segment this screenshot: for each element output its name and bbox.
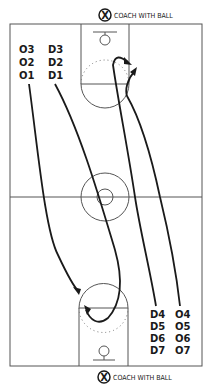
svg-text:O4: O4 — [175, 309, 191, 320]
svg-text:O2: O2 — [19, 57, 35, 68]
top-left-offense: O3 O2 O1 — [19, 44, 35, 81]
coach-top-label: COACH WITH BALL — [114, 12, 173, 20]
svg-text:O6: O6 — [175, 333, 191, 344]
svg-text:X: X — [101, 10, 109, 21]
arrow-head-icon — [124, 57, 132, 65]
svg-text:D6: D6 — [150, 333, 165, 344]
coach-bottom-label: COACH WITH BALL — [113, 374, 172, 382]
court-diagram: X COACH WITH BALL X COACH WITH BALL O3 O… — [0, 0, 216, 389]
svg-text:O3: O3 — [19, 44, 35, 55]
svg-text:D5: D5 — [150, 321, 165, 332]
top-hoop-icon — [100, 35, 110, 45]
coach-top: X COACH WITH BALL — [99, 9, 173, 21]
arrow-head-icon — [73, 287, 81, 295]
bottom-key — [79, 284, 128, 367]
o1-path — [29, 84, 79, 292]
svg-text:D4: D4 — [150, 309, 165, 320]
svg-text:D1: D1 — [48, 70, 63, 81]
svg-text:D2: D2 — [48, 57, 63, 68]
svg-text:D3: D3 — [48, 44, 63, 55]
svg-text:O5: O5 — [175, 321, 191, 332]
bottom-right-offense: O4 O5 O6 O7 — [175, 309, 191, 356]
svg-text:O1: O1 — [19, 70, 35, 81]
svg-text:O7: O7 — [175, 345, 191, 356]
court-boundary — [10, 24, 202, 366]
coach-bottom: X COACH WITH BALL — [98, 371, 172, 383]
top-left-defense: D3 D2 D1 — [48, 44, 63, 81]
arrow-head-icon — [84, 305, 91, 315]
bottom-right-defense: D4 D5 D6 D7 — [150, 309, 165, 356]
top-key — [81, 24, 129, 108]
svg-text:X: X — [100, 372, 108, 383]
bottom-hoop-icon — [99, 346, 109, 356]
svg-text:D7: D7 — [150, 345, 165, 356]
